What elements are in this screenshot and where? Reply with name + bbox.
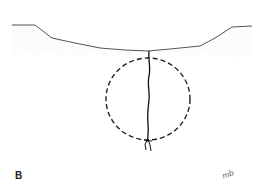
diagram-canvas <box>0 0 262 187</box>
tract-line <box>148 51 150 142</box>
panel-label: B <box>15 171 22 181</box>
tissue-layer <box>12 25 252 58</box>
illustration: B mb <box>0 0 262 187</box>
knot-icon <box>144 139 152 151</box>
